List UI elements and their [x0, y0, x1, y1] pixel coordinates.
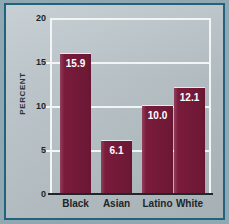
bar-value-asian: 6.1 — [101, 145, 132, 156]
y-tick-label-15: 15 — [24, 58, 46, 67]
y-tick-label-0: 0 — [24, 190, 46, 199]
bar-white[interactable]: 12.1 — [174, 87, 205, 195]
bar-latino[interactable]: 10.0 — [142, 105, 173, 195]
x-axis-line — [48, 193, 213, 195]
x-axis-category-labels: Black Asian Latino White — [50, 198, 211, 216]
y-tick-label-5: 5 — [24, 146, 46, 155]
figure-frame: PERCENT 20 15 10 5 0 15.9 6.1 — [0, 0, 229, 224]
bar-value-latino: 10.0 — [142, 110, 173, 121]
plot-frame-top-line — [50, 18, 211, 20]
bar-black[interactable]: 15.9 — [60, 53, 91, 195]
y-tick-label-20: 20 — [24, 14, 46, 23]
bar-value-white: 12.1 — [174, 92, 205, 103]
x-label-white: White — [164, 198, 215, 209]
bar-value-black: 15.9 — [60, 58, 91, 69]
y-axis-tick-labels: 20 15 10 5 0 — [20, 3, 46, 220]
bar-asian[interactable]: 6.1 — [101, 140, 132, 195]
y-tick-label-10: 10 — [24, 102, 46, 111]
bar-chart: PERCENT 20 15 10 5 0 15.9 6.1 — [4, 3, 225, 220]
plot-area: 15.9 6.1 10.0 12.1 — [50, 18, 211, 195]
